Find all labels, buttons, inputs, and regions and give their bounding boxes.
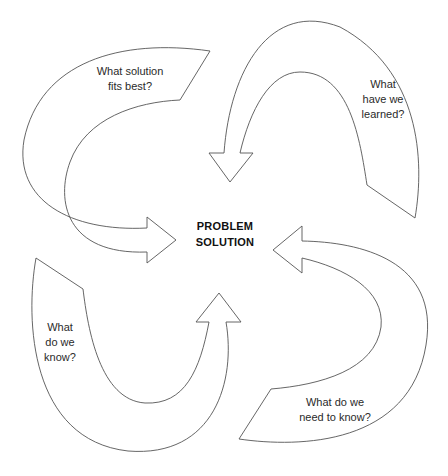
label-what-solution-fits-best: What solution fits best?: [97, 64, 164, 94]
label-line: What do we: [299, 395, 371, 410]
label-line: have we: [362, 92, 405, 107]
label-line: do we: [44, 335, 76, 350]
label-what-do-we-know: What do we know?: [44, 320, 76, 365]
center-problem-solution: PROBLEM SOLUTION: [196, 218, 254, 250]
label-what-do-we-need-to-know: What do we need to know?: [299, 395, 371, 425]
label-line: fits best?: [97, 79, 164, 94]
label-what-have-we-learned: What have we learned?: [362, 77, 405, 122]
label-line: What: [362, 77, 405, 92]
center-line-2: SOLUTION: [196, 234, 254, 250]
label-line: What solution: [97, 64, 164, 79]
label-line: know?: [44, 350, 76, 365]
center-line-1: PROBLEM: [196, 218, 254, 234]
label-line: learned?: [362, 107, 405, 122]
label-line: What: [44, 320, 76, 335]
label-line: need to know?: [299, 410, 371, 425]
